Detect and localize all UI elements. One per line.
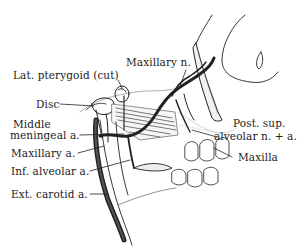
lower-teeth — [172, 167, 218, 187]
label-post-sup-line2: alveolar n. + a. — [214, 130, 297, 142]
label-disc: Disc — [36, 98, 59, 110]
label-ext-carotid-artery: Ext. carotid a. — [11, 188, 88, 200]
anatomy-diagram: Maxillary n. Lat. pterygoid (cut) Disc M… — [0, 0, 305, 251]
label-inf-alveolar-artery: Inf. alveolar a. — [11, 165, 89, 177]
label-maxillary-nerve: Maxillary n. — [126, 56, 191, 68]
face-outline — [196, 15, 278, 83]
ext-carotid-artery — [96, 120, 125, 240]
label-lateral-pterygoid: Lat. pterygoid (cut) — [13, 69, 119, 81]
label-post-sup-line1: Post. sup. — [233, 117, 285, 129]
lateral-pterygoid — [112, 104, 178, 140]
zygomatic-strip — [193, 43, 222, 121]
label-middle-meningeal-line2: meningeal a. — [10, 129, 80, 141]
label-maxilla: Maxilla — [238, 151, 278, 163]
label-maxillary-artery: Maxillary a. — [11, 147, 75, 159]
